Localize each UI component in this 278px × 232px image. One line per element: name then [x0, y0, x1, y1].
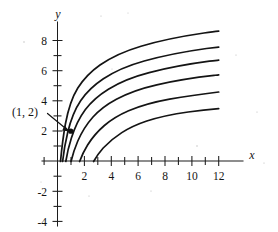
y-tick-label-neg4: -4 [37, 216, 47, 228]
logarithmic-curve-family-plot: 2 4 6 8 10 12 8 6 4 2 -2 -4 x y (1, 2) [0, 0, 278, 232]
x-axis-tick-labels: 2 4 6 8 10 12 [82, 170, 225, 182]
curve-c2 [63, 47, 219, 161]
x-tick-label-4: 4 [108, 170, 114, 182]
point-marker-dot [68, 129, 73, 134]
curve-family [61, 31, 219, 161]
axes [42, 22, 243, 226]
point-coordinate-label: (1, 2) [12, 105, 38, 119]
x-tick-label-12: 12 [213, 170, 225, 182]
x-tick-label-6: 6 [135, 170, 141, 182]
y-axis-tick-labels: 8 6 4 2 -2 -4 [37, 35, 47, 228]
x-axis-label: x [248, 148, 255, 162]
y-tick-label-8: 8 [41, 35, 47, 47]
curve-cm2 [94, 109, 219, 162]
y-tick-label-neg2: -2 [37, 186, 47, 198]
y-tick-label-2: 2 [41, 125, 47, 137]
figure-container: 2 4 6 8 10 12 8 6 4 2 -2 -4 x y (1, 2) [0, 0, 278, 232]
x-tick-label-8: 8 [162, 170, 168, 182]
x-tick-label-2: 2 [82, 170, 88, 182]
y-tick-label-4: 4 [41, 95, 47, 107]
y-axis-label: y [54, 7, 61, 21]
x-tick-label-10: 10 [186, 170, 198, 182]
y-tick-label-6: 6 [41, 65, 47, 77]
curve-c0 [71, 75, 219, 162]
